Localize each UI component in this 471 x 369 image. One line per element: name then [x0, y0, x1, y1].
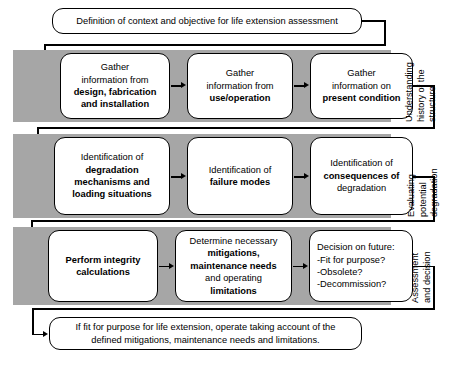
step-3-3-line2: -Fit for purpose?: [317, 255, 385, 265]
step-3-2-line3-bold: maintenance needs: [190, 261, 276, 271]
outcome-box: If fit for purpose for life extension, o…: [49, 317, 362, 350]
arrow-3-2-to-3-3-head: [303, 263, 308, 269]
step-2-3-line2: consequences of: [324, 171, 400, 181]
step-3-1-line2: calculations: [76, 267, 130, 277]
arrow-2-2-to-2-3-head: [304, 173, 309, 179]
step-2-1-line2: degradation: [85, 165, 138, 175]
definition-box-text: Definition of context and objective for …: [76, 15, 338, 28]
step-3-2-line4: and operating: [205, 273, 262, 283]
step-3-3-line1: Decision on future:: [317, 242, 395, 252]
step-2-1-line3: mechanisms and: [74, 177, 149, 187]
phase-label-2: Evaluating potential degradation: [406, 168, 441, 217]
step-3-2: Determine necessary mitigations, mainten…: [175, 230, 292, 302]
step-1-3: Gather information on present condition: [310, 53, 413, 119]
step-2-2: Identification of failure modes: [187, 137, 293, 215]
row1-to-row2-line: [37, 127, 435, 129]
definition-to-row1-line: [44, 44, 386, 46]
step-3-2-line5: limitations: [210, 286, 257, 296]
step-2-2-line1: Identification of: [209, 165, 272, 175]
step-2-3: Identification of consequences of degrad…: [310, 137, 413, 215]
step-2-1-line4: loading situations: [72, 189, 152, 199]
step-1-2-line2: information from: [206, 81, 273, 91]
step-2-1-line1: Identification of: [81, 152, 144, 162]
step-3-3-line4: -Decommission?: [317, 279, 386, 289]
definition-down-line: [384, 20, 386, 45]
arrow-3-1-to-3-2-head: [169, 263, 174, 269]
step-1-3-line3: present condition: [323, 93, 401, 103]
step-3-2-line2: mitigations,: [207, 248, 259, 258]
outcome-entry-arrowhead: [43, 331, 48, 337]
step-2-2-line2: failure modes: [210, 177, 270, 187]
row2-to-row3-line: [31, 220, 435, 222]
outcome-box-line2: defined mitigations, maintenance needs a…: [91, 335, 319, 345]
step-1-1-line4: and installation: [81, 99, 149, 109]
step-2-3-line1: Identification of: [330, 158, 393, 168]
step-1-3-line2: information on: [332, 81, 391, 91]
step-1-3-line1: Gather: [347, 68, 375, 78]
step-2-3-line3: degradation: [337, 183, 386, 193]
step-1-1-line2: information from: [81, 75, 148, 85]
arrow-2-1-to-2-2-head: [181, 173, 186, 179]
step-3-3: Decision on future: -Fit for purpose? -O…: [309, 230, 413, 302]
arrow-1-1-to-1-2-head: [181, 82, 186, 88]
step-1-1-line3: design, fabrication: [74, 87, 157, 97]
step-3-1-line1: Perform integrity: [66, 255, 141, 265]
step-3-2-line1: Determine necessary: [190, 236, 278, 246]
phase-label-3: Assessment and decision: [410, 251, 433, 303]
phase-label-1: Understanding history of the structure: [404, 62, 439, 122]
definition-out-line: [362, 20, 386, 22]
step-1-2-line1: Gather: [226, 68, 254, 78]
step-1-1: Gather information from design, fabricat…: [60, 53, 170, 119]
row3-exit-down-line: [433, 266, 435, 310]
definition-box: Definition of context and objective for …: [52, 8, 362, 34]
step-3-1: Perform integrity calculations: [48, 230, 158, 302]
step-1-1-line1: Gather: [101, 62, 129, 72]
step-3-3-line3: -Obsolete?: [317, 267, 362, 277]
row3-to-outcome-line: [32, 308, 435, 310]
life-extension-assessment-flowchart: Definition of context and objective for …: [0, 0, 471, 369]
step-2-1: Identification of degradation mechanisms…: [54, 137, 170, 215]
step-1-2: Gather information from use/operation: [187, 53, 293, 119]
outcome-entry-down-line: [32, 308, 34, 335]
arrow-1-2-to-1-3-head: [304, 82, 309, 88]
step-1-2-line3: use/operation: [210, 93, 271, 103]
outcome-box-line1: If fit for purpose for life extension, o…: [76, 322, 336, 332]
